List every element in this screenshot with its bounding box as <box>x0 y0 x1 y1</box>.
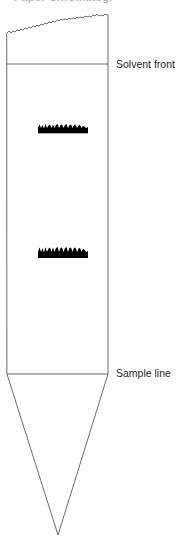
chromatography-figure: Paper Chromatogram Solvent front Sample … <box>0 0 183 550</box>
paper-strip-outline <box>7 14 108 535</box>
chromatography-diagram <box>0 0 183 550</box>
sample-line-label: Sample line <box>116 367 171 379</box>
solvent-front-label: Solvent front <box>116 58 175 70</box>
paper-strip <box>7 14 108 535</box>
